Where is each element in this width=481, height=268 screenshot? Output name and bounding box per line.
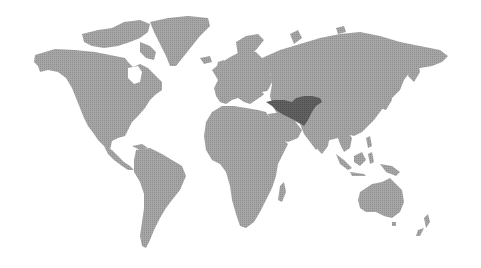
region-north-america bbox=[34, 49, 162, 150]
region-south-america bbox=[134, 148, 186, 248]
region-new-zealand bbox=[424, 214, 430, 228]
region-philippines bbox=[366, 136, 372, 148]
region-australia bbox=[358, 178, 404, 218]
region-arctic-islands bbox=[82, 20, 150, 48]
region-iceland bbox=[200, 56, 212, 64]
world-map bbox=[0, 0, 481, 268]
region-novaya-zemlya bbox=[290, 30, 302, 44]
region-sulawesi bbox=[368, 152, 374, 164]
region-baffin bbox=[140, 42, 156, 60]
region-tasmania bbox=[392, 222, 396, 226]
region-borneo bbox=[354, 152, 366, 166]
world-map-svg bbox=[0, 0, 481, 268]
region-severnaya bbox=[336, 26, 346, 34]
region-java bbox=[350, 172, 366, 176]
region-madagascar bbox=[278, 182, 286, 202]
region-central-america bbox=[104, 146, 134, 170]
region-sumatra bbox=[336, 154, 352, 170]
region-new-guinea bbox=[380, 164, 400, 176]
region-new-zealand-south bbox=[416, 228, 424, 236]
